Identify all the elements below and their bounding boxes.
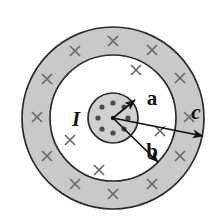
current-dot <box>110 130 115 135</box>
current-dot <box>95 115 100 120</box>
coaxial-cable-figure: abcI <box>0 0 224 224</box>
current-dot <box>99 104 104 109</box>
current-dot <box>110 100 115 105</box>
label-I: I <box>71 107 81 131</box>
center-point <box>111 116 115 120</box>
label-a: a <box>147 86 158 110</box>
label-c: c <box>191 100 201 124</box>
current-dot <box>99 126 104 131</box>
coaxial-cross-section-diagram: abcI <box>0 0 224 224</box>
label-b: b <box>146 139 158 163</box>
